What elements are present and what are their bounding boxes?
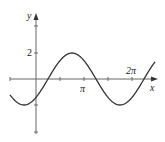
- x-tick-label-pi: π: [80, 84, 85, 94]
- y-tick-label-2: 2: [27, 48, 32, 58]
- y-axis-label: y: [27, 11, 31, 21]
- function-plot: [0, 0, 165, 142]
- x-tick-label-2pi: 2π: [126, 66, 136, 76]
- x-axis-arrow-icon: [151, 77, 158, 82]
- y-axis-arrow-icon: [34, 13, 39, 20]
- x-axis-label: x: [150, 83, 154, 93]
